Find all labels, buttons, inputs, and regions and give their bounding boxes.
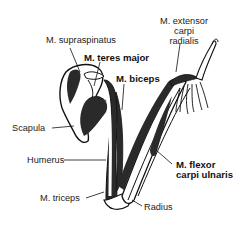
label-humerus: Humerus [27,155,64,165]
label-triceps: M. triceps [40,193,80,203]
label-teres-major: M. teres major [84,53,149,63]
label-line: radialis [154,36,214,46]
label-radius: Radius [144,202,173,212]
label-extensor-carpi-radialis: M. extensor carpi radialis [154,16,214,46]
label-supraspinatus: M. supraspinatus [46,35,116,45]
digit-bone [196,41,216,80]
label-line: carpi [154,26,214,36]
label-flexor-carpi-ulnaris: M. flexor carpi ulnaris [176,160,233,180]
label-biceps: M. biceps [116,74,160,84]
anatomy-figure: M. supraspinatus M. teres major M. bicep… [0,0,246,225]
label-scapula: Scapula [12,123,45,133]
label-line: M. extensor [154,16,214,26]
label-line: carpi ulnaris [176,170,233,180]
